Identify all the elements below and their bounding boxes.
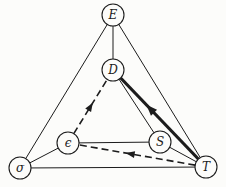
- node-S: S: [149, 131, 171, 153]
- node-E: E: [102, 4, 124, 26]
- node-label-E: E: [108, 8, 118, 22]
- edge-epsilon-S: [68, 142, 160, 143]
- arrowhead-T-epsilon: [126, 151, 135, 158]
- edges-layer: [20, 15, 206, 168]
- node-sigma: σ: [9, 157, 31, 179]
- node-label-S: S: [156, 135, 164, 149]
- graph-diagram: EDϵSσT: [0, 0, 226, 187]
- node-label-sigma: σ: [16, 161, 25, 175]
- node-label-epsilon: ϵ: [65, 136, 72, 150]
- node-label-T: T: [202, 160, 211, 174]
- node-D: D: [102, 59, 124, 81]
- arrowheads-layer: [85, 103, 157, 158]
- node-label-D: D: [107, 63, 118, 77]
- arrowhead-epsilon-D: [85, 103, 93, 112]
- node-epsilon: ϵ: [57, 132, 79, 154]
- edge-sigma-T: [20, 167, 206, 168]
- node-T: T: [195, 156, 217, 178]
- graph-figure: EDϵSσT: [0, 0, 226, 187]
